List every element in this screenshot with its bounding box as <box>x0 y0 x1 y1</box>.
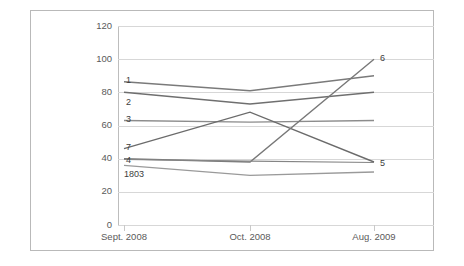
point-label-3: 3 <box>126 115 131 124</box>
point-label-4: 4 <box>126 156 131 165</box>
series-line-1803 <box>124 165 374 175</box>
y-tick-label-40: 40 <box>52 153 112 163</box>
x-axis-label-aug-2009: Aug. 2009 <box>314 231 434 242</box>
y-tick-label-120: 120 <box>52 21 112 31</box>
y-tick-label-100: 100 <box>52 54 112 64</box>
x-axis-label-oct-2008: Oct. 2008 <box>190 231 310 242</box>
chart-figure: 120 100 80 60 40 20 0 <box>0 0 464 266</box>
x-axis-label-sept-2008: Sept. 2008 <box>64 231 184 242</box>
y-tick-label-60: 60 <box>52 120 112 130</box>
y-tick-label-80: 80 <box>52 87 112 97</box>
gridline-0 <box>118 225 434 226</box>
series-line-2 <box>124 92 374 104</box>
point-label-1: 1 <box>126 76 131 85</box>
series-line-3 <box>124 121 374 123</box>
point-label-2: 2 <box>126 98 131 107</box>
endpoint-label-5: 5 <box>380 159 385 168</box>
point-label-7: 7 <box>126 143 131 152</box>
point-label-1803: 1803 <box>124 170 144 179</box>
y-tick-label-20: 20 <box>52 186 112 196</box>
endpoint-label-6: 6 <box>380 54 385 63</box>
y-tick-label-0: 0 <box>52 220 112 230</box>
plot-area: 1 2 3 7 4 1803 6 5 <box>118 26 434 225</box>
series-lines <box>118 26 434 225</box>
series-line-7 <box>124 112 374 162</box>
series-line-1 <box>124 76 374 91</box>
